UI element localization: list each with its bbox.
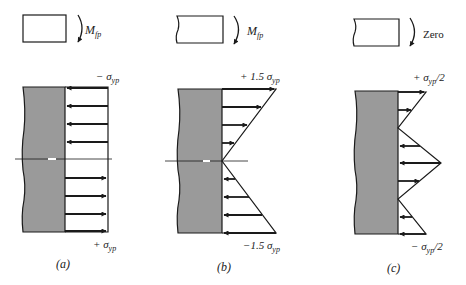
moment-arrow-icon-a bbox=[78, 15, 82, 42]
caption-a: (a) bbox=[56, 257, 70, 271]
panel-a: Mfp − σyp + σyp (a) bbox=[15, 15, 119, 271]
top-stress-label-c: + σyp/2 bbox=[413, 71, 445, 86]
residual-stress-arrows-c bbox=[398, 92, 441, 234]
moment-arrow-icon-c bbox=[410, 18, 415, 46]
beam-section-sketch-c bbox=[353, 19, 399, 46]
panel-c: Zero + σyp/2 − σyp/2 (c) bbox=[353, 18, 445, 275]
bottom-stress-label-b: −1.5 σyp bbox=[243, 239, 280, 254]
top-stress-label-b: + 1.5 σyp bbox=[240, 70, 280, 85]
compression-arrows-a bbox=[67, 88, 108, 142]
moment-label-a: Mfp bbox=[84, 23, 101, 39]
beam-c bbox=[354, 91, 398, 234]
caption-b: (b) bbox=[217, 260, 231, 274]
beam-section-sketch-b bbox=[176, 16, 223, 43]
beam-a bbox=[22, 87, 65, 232]
moment-label-b: Mfp bbox=[246, 24, 263, 40]
tension-arrows-a bbox=[65, 178, 106, 231]
stress-envelope-a bbox=[65, 87, 108, 232]
residual-stress-diagram: Mfp − σyp + σyp (a) Mfp bbox=[0, 0, 466, 285]
compression-arrows-b bbox=[224, 179, 276, 233]
beam-section-sketch-a bbox=[23, 15, 66, 42]
caption-c: (c) bbox=[387, 261, 400, 275]
bottom-stress-label-c: − σyp/2 bbox=[411, 240, 443, 255]
tension-arrows-b bbox=[222, 89, 274, 143]
moment-label-c: Zero bbox=[423, 28, 444, 40]
moment-arrow-icon-b bbox=[234, 16, 239, 44]
panel-b: Mfp + 1.5 σyp −1.5 σyp (b) bbox=[165, 16, 280, 274]
top-stress-label-a: − σyp bbox=[96, 70, 119, 85]
bottom-stress-label-a: + σyp bbox=[93, 238, 116, 253]
